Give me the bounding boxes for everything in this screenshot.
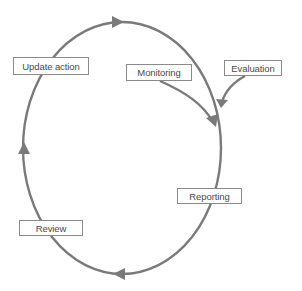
node-label: Monitoring bbox=[137, 67, 180, 78]
monitoring-arrow bbox=[160, 81, 213, 122]
node-label: Evaluation bbox=[231, 63, 274, 74]
evaluation-arrow bbox=[222, 76, 245, 102]
loop-arrow-bottom-icon bbox=[113, 268, 125, 280]
cycle-diagram bbox=[0, 0, 302, 291]
node-update-action: Update action bbox=[13, 57, 89, 75]
node-evaluation: Evaluation bbox=[224, 60, 282, 76]
node-review: Review bbox=[19, 220, 83, 236]
node-label: Review bbox=[36, 223, 67, 234]
node-label: Reporting bbox=[189, 191, 229, 202]
loop-arrow-top-icon bbox=[112, 16, 124, 28]
node-monitoring: Monitoring bbox=[126, 64, 192, 81]
node-reporting: Reporting bbox=[177, 188, 242, 204]
node-label: Update action bbox=[22, 61, 79, 72]
loop-arrow-left-icon bbox=[18, 142, 30, 154]
evaluation-arrowhead-icon bbox=[216, 99, 228, 108]
